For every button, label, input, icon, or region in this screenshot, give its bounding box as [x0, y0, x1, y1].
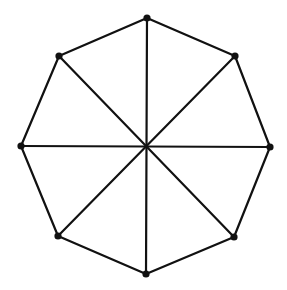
vertex-dot	[142, 270, 149, 277]
vertex-dot	[266, 143, 273, 150]
vertex-dot	[54, 232, 61, 239]
vertex-dot	[143, 14, 150, 21]
vertex-dot	[17, 142, 24, 149]
vertex-dot	[231, 52, 238, 59]
vertex-dot	[230, 233, 237, 240]
vertex-dot	[55, 52, 62, 59]
wheel-graph-diagram	[0, 0, 287, 290]
